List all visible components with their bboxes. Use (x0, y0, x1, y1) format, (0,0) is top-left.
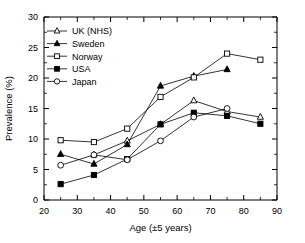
data-point-usa (91, 172, 96, 177)
data-point-usa (58, 182, 63, 187)
data-point-norway (258, 57, 263, 62)
x-tick-label: 30 (72, 206, 82, 216)
data-point-norway (158, 94, 163, 99)
y-tick-label: 15 (28, 104, 38, 114)
data-point-japan (58, 162, 64, 168)
chart-figure: 2030405060708090051015202530Age (±5 year… (0, 0, 305, 243)
y-tick-label: 10 (28, 134, 38, 144)
y-tick-label: 30 (28, 12, 38, 22)
data-point-norway (224, 51, 229, 56)
data-point-norway (125, 126, 130, 131)
legend-marker-sweden (54, 40, 60, 45)
y-tick-label: 5 (33, 165, 38, 175)
legend-marker-japan (54, 79, 59, 84)
legend-label-norway: Norway (72, 52, 103, 62)
data-point-usa (258, 121, 263, 126)
x-tick-label: 60 (172, 206, 182, 216)
legend-label-japan: Japan (72, 77, 97, 87)
x-tick-label: 20 (39, 206, 49, 216)
data-point-usa (224, 113, 229, 118)
legend-label-usa: USA (72, 64, 91, 74)
legend-label-sweden: Sweden (72, 39, 105, 49)
data-point-uk-nhs- (191, 97, 197, 103)
data-point-norway (58, 138, 63, 143)
legend-marker-uk-nhs- (54, 28, 60, 33)
data-point-norway (191, 75, 196, 80)
x-tick-label: 80 (239, 206, 249, 216)
prevalence-by-age-line-chart: 2030405060708090051015202530Age (±5 year… (0, 0, 305, 243)
x-tick-label: 90 (272, 206, 282, 216)
data-point-sweden (224, 66, 230, 72)
data-point-japan (224, 106, 230, 112)
data-point-japan (91, 152, 97, 158)
y-tick-label: 0 (33, 195, 38, 205)
data-point-sweden (58, 151, 64, 157)
y-tick-label: 20 (28, 73, 38, 83)
data-point-japan (191, 114, 197, 120)
data-point-norway (91, 139, 96, 144)
legend-marker-norway (55, 54, 60, 59)
series-line-japan (61, 109, 227, 166)
x-tick-label: 70 (205, 206, 215, 216)
x-axis-title: Age (±5 years) (129, 222, 191, 233)
y-tick-label: 25 (28, 43, 38, 53)
data-point-japan (158, 138, 164, 144)
data-point-japan (124, 157, 130, 163)
x-tick-label: 50 (139, 206, 149, 216)
y-axis-title: Prevalence (%) (3, 76, 14, 141)
x-tick-label: 40 (106, 206, 116, 216)
data-point-usa (158, 122, 163, 127)
legend-label-uk-nhs-: UK (NHS) (72, 26, 112, 36)
series-line-uk-nhs- (94, 101, 260, 155)
legend-marker-usa (55, 66, 60, 71)
